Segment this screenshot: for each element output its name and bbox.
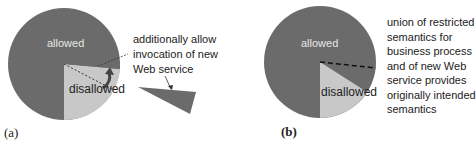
annotation-a-line-1: additionally allow bbox=[133, 32, 218, 47]
annotation-a-line-2: invocation of new bbox=[133, 47, 218, 62]
annotation-a-line-3: Web service bbox=[133, 62, 218, 77]
annotation-b-line-3: business process bbox=[387, 44, 476, 59]
annotation-b-line-6: originally intended bbox=[387, 88, 476, 103]
pie-a-disallowed-label: disallowed bbox=[69, 83, 125, 96]
annotation-b: union of restricted semantics for busine… bbox=[387, 15, 476, 117]
annotation-b-line-1: union of restricted bbox=[387, 15, 476, 30]
annotation-b-line-7: semantics bbox=[387, 102, 476, 117]
pie-b-disallowed-label: disallowed bbox=[321, 86, 377, 99]
pie-b-allowed-label: allowed bbox=[301, 37, 338, 50]
arrowhead-small-icon bbox=[168, 85, 173, 90]
panel-a-label: (a) bbox=[4, 125, 18, 141]
annotation-b-line-4: and of new Web bbox=[387, 59, 476, 74]
annotation-a: additionally allow invocation of new Web… bbox=[133, 32, 218, 77]
panel-b-label: (b) bbox=[281, 124, 297, 140]
pie-a-allowed-label: allowed bbox=[47, 37, 84, 50]
annotation-b-line-2: semantics for bbox=[387, 30, 476, 45]
pie-a bbox=[8, 8, 128, 120]
pie-b bbox=[264, 6, 376, 118]
detached-web-service-wedge bbox=[138, 87, 196, 114]
annotation-b-line-5: service provides bbox=[387, 73, 476, 88]
